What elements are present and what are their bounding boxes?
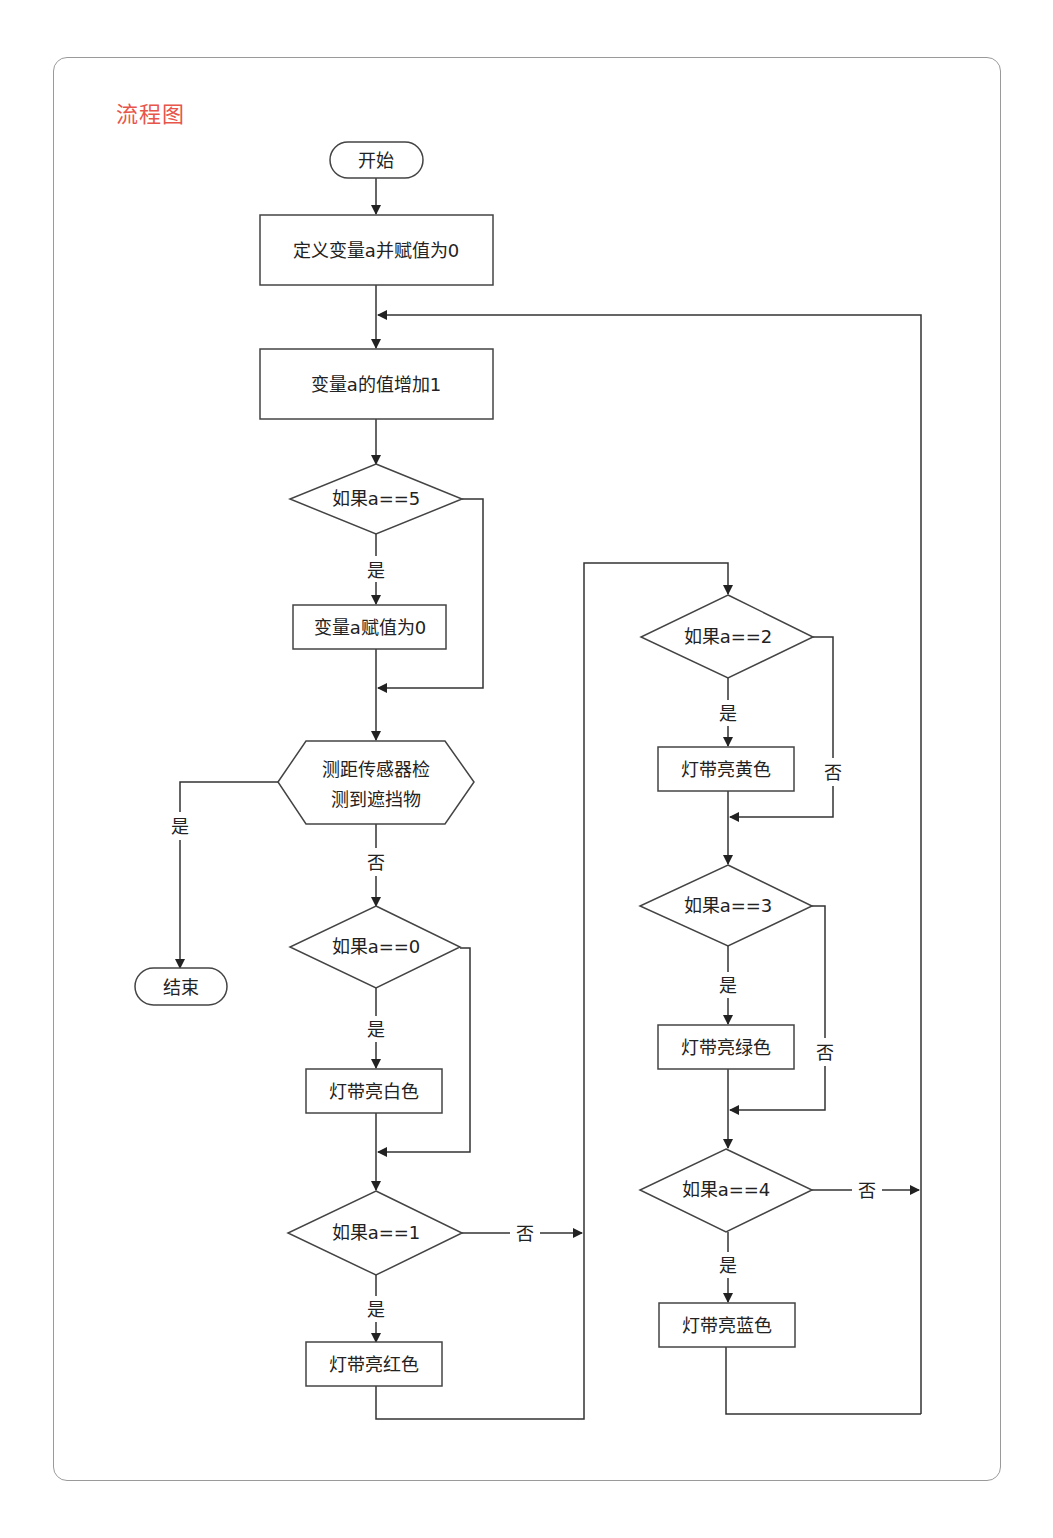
check2-no-label: 否 <box>824 762 842 783</box>
green-label: 灯带亮绿色 <box>681 1037 771 1058</box>
white-node: 灯带亮白色 <box>306 1069 442 1113</box>
check5-yes-label: 是 <box>367 560 385 581</box>
white-label: 灯带亮白色 <box>329 1081 419 1102</box>
check5-decision: 如果a==5 <box>290 464 462 534</box>
yellow-label: 灯带亮黄色 <box>681 759 771 780</box>
increment-node: 变量a的值增加1 <box>260 349 493 419</box>
end-node: 结束 <box>135 968 227 1005</box>
reset-label: 变量a赋值为0 <box>314 617 426 638</box>
check0-yes-label: 是 <box>367 1019 385 1040</box>
sensor-label-line2: 测到遮挡物 <box>331 789 421 810</box>
check2-label: 如果a==2 <box>684 626 773 647</box>
check4-decision: 如果a==4 <box>640 1149 812 1232</box>
sensor-decision: 测距传感器检 测到遮挡物 <box>278 741 474 824</box>
sensor-label-line1: 测距传感器检 <box>322 759 430 780</box>
sensor-no-label: 否 <box>367 852 385 873</box>
check1-decision: 如果a==1 <box>288 1191 462 1275</box>
check2-decision: 如果a==2 <box>641 595 813 678</box>
increment-label: 变量a的值增加1 <box>311 374 441 395</box>
green-node: 灯带亮绿色 <box>658 1025 794 1069</box>
init-label: 定义变量a并赋值为0 <box>293 240 459 261</box>
check1-label: 如果a==1 <box>332 1222 421 1243</box>
check0-label: 如果a==0 <box>332 936 421 957</box>
check4-no-label: 否 <box>858 1180 876 1201</box>
check4-yes-label: 是 <box>719 1255 737 1276</box>
check0-decision: 如果a==0 <box>290 906 460 988</box>
check2-yes-label: 是 <box>719 703 737 724</box>
yellow-node: 灯带亮黄色 <box>658 747 794 791</box>
check3-yes-label: 是 <box>719 975 737 996</box>
red-node: 灯带亮红色 <box>306 1342 442 1386</box>
check4-label: 如果a==4 <box>682 1179 771 1200</box>
sensor-yes-label: 是 <box>171 816 189 837</box>
check1-yes-label: 是 <box>367 1299 385 1320</box>
blue-label: 灯带亮蓝色 <box>682 1315 772 1336</box>
check3-label: 如果a==3 <box>684 895 773 916</box>
end-label: 结束 <box>163 977 199 998</box>
check1-no-label: 否 <box>516 1223 534 1244</box>
init-node: 定义变量a并赋值为0 <box>260 215 493 285</box>
flowchart: 开始 定义变量a并赋值为0 变量a的值增加1 如果a==5 变量a赋值为0 测距… <box>0 0 1053 1538</box>
blue-node: 灯带亮蓝色 <box>659 1303 795 1347</box>
check5-label: 如果a==5 <box>332 488 421 509</box>
start-node: 开始 <box>330 142 423 178</box>
reset-node: 变量a赋值为0 <box>293 605 446 649</box>
check3-decision: 如果a==3 <box>640 865 812 946</box>
start-label: 开始 <box>358 150 394 171</box>
red-label: 灯带亮红色 <box>329 1354 419 1375</box>
check3-no-label: 否 <box>816 1042 834 1063</box>
